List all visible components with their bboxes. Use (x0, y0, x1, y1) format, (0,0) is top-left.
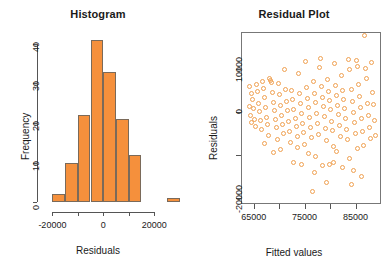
scatter-point (261, 86, 266, 91)
scatter-point (295, 145, 300, 150)
scatter-point (247, 84, 252, 89)
scatter-point (323, 126, 328, 131)
scatter-point (312, 170, 317, 175)
scatter-point (314, 111, 319, 116)
histogram-x-tick-label: -20000 (38, 220, 66, 230)
scatter-point (319, 84, 324, 89)
scatter-point (368, 136, 373, 141)
scatter-point (313, 100, 318, 105)
histogram-bar (129, 155, 142, 202)
scatter-point (317, 65, 322, 70)
scatter-point (373, 133, 378, 138)
histogram-y-tick (33, 202, 37, 203)
scatter-point (359, 116, 364, 121)
scatter-point (349, 87, 354, 92)
scatter-point (308, 125, 313, 130)
scatter-point (305, 96, 310, 101)
histogram-x-tick (52, 212, 53, 216)
scatter-point (303, 59, 308, 64)
residual-x-tick (305, 204, 306, 209)
residual-x-tick (356, 204, 357, 209)
scatter-point (352, 120, 357, 125)
scatter-point (302, 142, 307, 147)
scatter-point (275, 137, 280, 142)
scatter-point (316, 132, 321, 137)
scatter-point (295, 134, 300, 139)
histogram-ylabel: Frequency (20, 113, 31, 160)
histogram-y-tick-label: 10 (31, 160, 41, 170)
residual-xlabel: Fitted values (196, 247, 392, 258)
scatter-point (294, 124, 299, 129)
histogram-bar (65, 163, 78, 203)
scatter-point (338, 134, 343, 139)
scatter-point (349, 182, 354, 187)
histogram-bar (91, 40, 104, 202)
histogram-x-tick (129, 212, 130, 216)
scatter-point (278, 103, 283, 108)
histogram-bar (78, 115, 91, 202)
scatter-point (301, 130, 306, 135)
residual-x-tick (254, 204, 255, 209)
histogram-y-tick-label: 40 (31, 42, 41, 52)
scatter-point (372, 118, 377, 123)
scatter-point (350, 99, 355, 104)
scatter-point (251, 106, 256, 111)
residual-y-tick (236, 155, 241, 156)
residual-x-tick-label: 65000 (241, 212, 266, 222)
scatter-point (320, 95, 325, 100)
scatter-point (358, 105, 363, 110)
scatter-point (257, 109, 262, 114)
scatter-point (322, 114, 327, 119)
scatter-point (347, 156, 352, 161)
histogram-y-tick-label: 20 (31, 121, 41, 131)
histogram-y-tick-label: 0 (31, 205, 41, 210)
residual-x-tick (330, 204, 331, 209)
scatter-point (297, 91, 302, 96)
residual-x-tick-label: 85000 (343, 212, 368, 222)
scatter-point (256, 101, 261, 106)
scatter-point (347, 67, 352, 72)
scatter-point (299, 111, 304, 116)
scatter-point (351, 110, 356, 115)
scatter-point (354, 58, 359, 63)
scatter-point (333, 83, 338, 88)
scatter-point (312, 91, 317, 96)
histogram-x-tick (103, 212, 104, 216)
scatter-point (300, 121, 305, 126)
scatter-point (259, 127, 264, 132)
scatter-point (269, 80, 274, 85)
scatter-point (293, 116, 298, 121)
residual-x-tick-label: 75000 (292, 212, 317, 222)
histogram-x-tick-label: 20000 (142, 220, 167, 230)
histogram-x-tick (78, 212, 79, 216)
scatter-point (260, 79, 265, 84)
residual-ylabel: Residuals (208, 116, 219, 160)
scatter-point (341, 97, 346, 102)
scatter-point (310, 189, 315, 194)
scatter-point (364, 76, 369, 81)
scatter-point (307, 115, 312, 120)
histogram-x-tick-label: 0 (101, 220, 106, 230)
scatter-point (258, 118, 263, 123)
scatter-point (253, 124, 258, 129)
histogram-bar (103, 72, 116, 203)
scatter-point (361, 143, 366, 148)
scatter-point (255, 89, 260, 94)
scatter-point (296, 71, 301, 76)
residual-y-tick-label: 10000 (234, 57, 244, 82)
scatter-point (367, 125, 372, 130)
scatter-point (304, 85, 309, 90)
histogram-x-tick (154, 212, 155, 216)
histogram-panel: Histogram Frequency Residuals 010203040-… (0, 0, 196, 268)
residual-title: Residual Plot (196, 8, 392, 20)
histogram-bar (116, 119, 129, 202)
histogram-y-tick-label: 30 (31, 81, 41, 91)
scatter-point (324, 180, 329, 185)
histogram-bar (52, 194, 65, 202)
histogram-bar (167, 198, 180, 202)
scatter-point (334, 149, 339, 154)
residual-y-tick-label: -20000 (234, 185, 244, 213)
scatter-point (315, 121, 320, 126)
scatter-point (272, 108, 277, 113)
residual-x-tick (279, 204, 280, 209)
